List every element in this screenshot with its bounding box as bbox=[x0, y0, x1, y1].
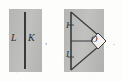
left-diagram-trailing-comma: , bbox=[45, 37, 47, 46]
right-diagram-trailing-period: . bbox=[113, 38, 115, 47]
right-diagram-linework bbox=[60, 5, 115, 77]
label-k: K bbox=[28, 33, 35, 43]
label-l: L bbox=[11, 33, 17, 43]
label-i-top: I bbox=[66, 21, 69, 30]
left-diagram-vertical-line bbox=[24, 12, 26, 69]
label-i-bottom: I bbox=[66, 50, 69, 59]
figure-sheet: L K , I I O . bbox=[0, 0, 123, 82]
label-o: O bbox=[91, 35, 98, 44]
